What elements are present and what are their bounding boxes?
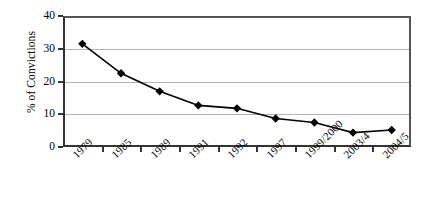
gridline-20 bbox=[65, 82, 409, 83]
y-tick-label-0: 0 bbox=[31, 140, 55, 152]
x-tick-mark-1 bbox=[102, 147, 104, 152]
x-tick-mark-6 bbox=[295, 147, 297, 152]
line-chart: % of Convictions 010203040 1979198519891… bbox=[0, 0, 429, 216]
x-tick-mark-5 bbox=[256, 147, 258, 152]
x-tick-mark-3 bbox=[179, 147, 181, 152]
gridline-10 bbox=[65, 114, 409, 115]
y-axis-title: % of Convictions bbox=[20, 0, 42, 147]
y-tick-label-10: 10 bbox=[31, 107, 55, 119]
gridline-30 bbox=[65, 49, 409, 50]
y-tick-label-20: 20 bbox=[31, 75, 55, 87]
y-tick-label-40: 40 bbox=[31, 9, 55, 21]
x-tick-mark-8 bbox=[372, 147, 374, 152]
plot-area bbox=[63, 16, 411, 147]
x-tick-mark-4 bbox=[218, 147, 220, 152]
x-tick-mark-2 bbox=[140, 147, 142, 152]
y-tick-label-30: 30 bbox=[31, 42, 55, 54]
x-tick-mark-7 bbox=[334, 147, 336, 152]
